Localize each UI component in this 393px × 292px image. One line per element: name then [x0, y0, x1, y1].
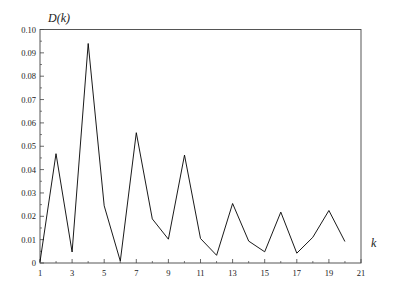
y-tick-label: 0.10 [21, 25, 36, 35]
y-tick-label: 0.08 [21, 71, 36, 81]
x-tick-label: 19 [325, 268, 334, 278]
x-tick-label: 7 [134, 268, 138, 278]
y-tick-label: 0.02 [21, 211, 36, 221]
x-tick-label: 5 [102, 268, 106, 278]
y-tick-label: 0.07 [21, 95, 36, 105]
x-tick-label: 9 [166, 268, 170, 278]
x-tick-label: 15 [260, 268, 269, 278]
plot-frame [40, 30, 361, 264]
y-tick-label: 0.09 [21, 48, 36, 58]
x-tick-label: 17 [293, 268, 302, 278]
x-axis-label: k [371, 236, 377, 250]
y-tick-label: 0.03 [21, 188, 36, 198]
y-tick-label: 0.05 [21, 141, 36, 151]
y-tick-label: 0.04 [21, 165, 37, 175]
x-tick-label: 11 [196, 268, 204, 278]
y-tick-label: 0.01 [21, 235, 36, 245]
data-line [40, 44, 345, 262]
y-tick-label: 0.06 [21, 118, 36, 128]
y-axis-label: D(k) [47, 11, 70, 25]
x-tick-label: 3 [70, 268, 74, 278]
x-tick-label: 13 [228, 268, 237, 278]
x-axis: 13579111315171921 [38, 259, 365, 278]
y-axis: 00.010.020.030.040.050.060.070.080.090.1… [21, 25, 44, 269]
x-tick-label: 1 [38, 268, 42, 278]
y-tick-label: 0 [32, 258, 36, 268]
line-chart: 00.010.020.030.040.050.060.070.080.090.1… [0, 0, 393, 292]
x-tick-label: 21 [357, 268, 366, 278]
